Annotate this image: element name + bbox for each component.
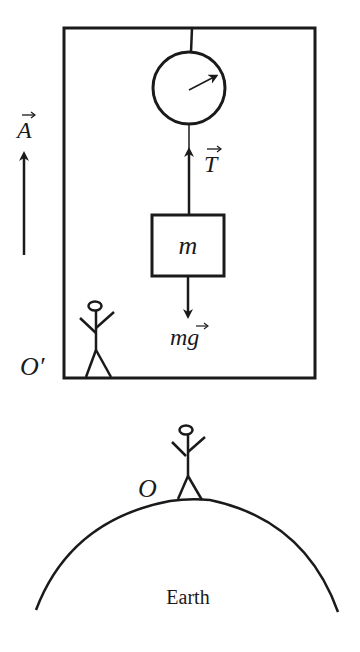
earth-origin-label: O: [138, 474, 157, 503]
scale-needle-icon: [189, 77, 214, 90]
observer-on-earth-icon: [172, 426, 205, 501]
suspension-string: [191, 28, 192, 52]
spring-scale: [153, 52, 225, 124]
acceleration-vector: A: [15, 112, 35, 255]
weight-vector: mg: [170, 276, 208, 350]
elevator-diagram: T m mg A O′ O: [0, 0, 360, 652]
elevator-origin-label: O′: [20, 352, 45, 381]
weight-label: mg: [170, 324, 199, 350]
tension-vector: T: [189, 146, 221, 215]
earth-label: Earth: [166, 586, 209, 608]
acceleration-label: A: [15, 117, 32, 143]
observer-in-elevator-icon: [80, 302, 114, 378]
tension-label: T: [204, 151, 219, 177]
mass-block: m: [152, 215, 224, 276]
mass-label: m: [179, 231, 198, 260]
